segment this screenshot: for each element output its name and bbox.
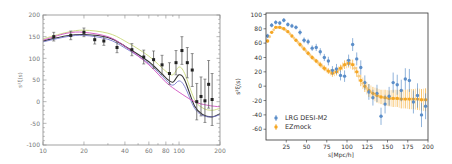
data-point [130,48,133,51]
data-point [175,61,178,64]
data-point [391,81,394,84]
data-point [310,46,313,49]
lrg-legend-label: LRG DESI-M2 [285,114,328,122]
data-point [266,39,269,42]
data-point [102,40,105,43]
data-point [211,98,214,101]
data-point [412,100,415,103]
right-correlation-chart: -60-40-200204060801002550751001251501752… [226,0,452,164]
x-tick-label: 175 [402,143,414,150]
data-point [52,35,55,38]
y-tick-label: -60 [252,125,262,132]
left-correlation-chart: -100-500501001502001020406080100200s²ξ(s… [0,0,226,164]
data-point [191,69,194,72]
y-tick-label: 50 [32,76,40,83]
y-axis-label: s²ξ(s) [17,72,24,87]
x-tick-label: 20 [80,147,88,154]
data-point [93,38,96,41]
data-point [371,96,374,99]
data-point [319,50,322,53]
data-point [270,23,273,26]
data-point [142,56,145,59]
data-point [408,79,411,82]
y-tick-label: 80 [254,25,262,32]
y-tick-label: -100 [26,141,40,148]
data-point [290,24,293,27]
data-point [116,46,119,49]
x-tick-label: 200 [214,147,226,154]
y-tick-label: -40 [252,111,262,118]
x-tick-label: 50 [303,143,311,150]
y-tick-label: 60 [254,39,262,46]
x-tick-label: 200 [422,143,434,150]
data-point [379,115,382,118]
data-point [327,59,330,62]
y-tick-label: 0 [258,82,262,89]
x-tick-label: 60 [145,147,153,154]
data-point [416,94,419,97]
x-tick-label: 40 [121,147,129,154]
x-tick-label: 150 [382,143,394,150]
data-point [315,46,318,49]
ezmock-legend-marker [274,125,277,128]
data-point [359,66,362,69]
legend: LRG DESI-M2EZmock [274,114,327,131]
data-point [396,83,399,86]
x-tick-label: 25 [282,143,290,150]
x-tick-label: 75 [323,143,331,150]
data-point [323,56,326,59]
data-point [302,39,305,42]
data-point [168,72,171,75]
y-tick-label: 200 [29,11,41,18]
data-point [351,43,354,46]
y-tick-label: 150 [29,33,41,40]
data-point [180,49,183,52]
data-point [199,95,202,98]
right-chart-canvas: -60-40-200204060801002550751001251501752… [226,0,452,164]
data-point [347,59,350,62]
data-point [400,89,403,92]
data-point [404,77,407,80]
data-point [195,100,198,103]
data-point [207,83,210,86]
data-point [355,57,358,60]
data-point [383,102,386,105]
model-curves [43,30,220,117]
y-tick-label: 100 [251,11,263,18]
data-point [152,58,155,61]
x-tick-label: 100 [173,147,185,154]
data-point [343,74,346,77]
y-tick-label: 0 [36,98,40,105]
x-tick-label: 10 [39,147,47,154]
data-point [203,99,206,102]
x-tick-label: 100 [341,143,353,150]
x-tick-label: 80 [162,147,170,154]
ezmock-legend-label: EZmock [285,123,311,131]
data-point [82,31,85,34]
data-points [52,28,213,126]
data-point [294,26,297,29]
data-point [278,21,281,24]
data-point [420,113,423,116]
y-axis-label: s²ξ(s) [234,78,242,95]
x-axis-label: s[Mpc/h] [328,151,354,159]
data-point [424,105,427,108]
data-point [282,18,285,21]
data-point [270,31,273,34]
data-point [306,40,309,43]
lrg-legend-marker [274,116,277,119]
y-tick-label: 40 [254,54,262,61]
x-tick-label: 125 [362,143,374,150]
data-point [355,70,358,73]
data-point [69,34,72,37]
y-tick-label: 20 [254,68,262,75]
y-tick-label: -50 [30,120,40,127]
data-point [161,63,164,66]
data-point [339,74,342,77]
data-point [186,61,189,64]
data-point [286,23,289,26]
y-tick-label: 100 [29,55,41,62]
data-point [298,31,301,34]
data-point [359,79,362,82]
left-chart-canvas: -100-500501001502001020406080100200s²ξ(s… [0,0,226,164]
